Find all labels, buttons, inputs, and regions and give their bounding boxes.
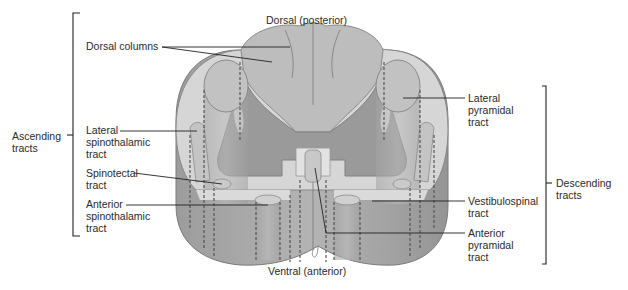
spinotectal-tract-right [393, 179, 411, 189]
ascending-bracket [67, 13, 80, 236]
ventral-label: Ventral (anterior) [268, 265, 346, 277]
descending-bracket [542, 86, 552, 264]
anterior-pyramidal-label: Anterior pyramidal tract [468, 227, 514, 263]
dorsal-columns-label: Dorsal columns [86, 40, 158, 52]
dorsal-label: Dorsal (posterior) [266, 14, 347, 26]
spinal-cord-diagram: Dorsal (posterior) Ventral (anterior) As… [0, 0, 628, 290]
anterior-spinothalamic-label: Anterior spinothalamic tract [86, 198, 150, 234]
vestibulospinal-tract [334, 195, 360, 260]
lateral-spinothalamic-label: Lateral spinothalamic tract [86, 124, 150, 160]
descending-tracts-label: Descending tracts [556, 177, 611, 201]
ascending-tracts-label: Ascending tracts [12, 130, 61, 154]
lateral-pyramidal-label: Lateral pyramidal tract [468, 92, 514, 128]
vestibulospinal-label: Vestibulospinal tract [468, 195, 538, 219]
spinotectal-label: Spinotectal tract [86, 167, 138, 191]
